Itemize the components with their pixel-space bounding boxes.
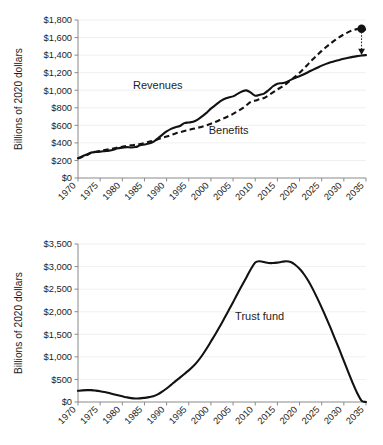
x-tick-label: 2015 <box>256 180 278 202</box>
y-tick-label: $1,600 <box>44 33 72 43</box>
y-axis-title: Billions of 2020 dollars <box>13 48 24 150</box>
x-tick-label: 1980 <box>101 404 123 426</box>
y-tick-label: $400 <box>51 138 72 148</box>
y-tick-label: $1,500 <box>44 330 72 340</box>
x-tick-label: 2015 <box>256 404 278 426</box>
x-tick-label: 2005 <box>211 180 233 202</box>
y-tick-label: $1,400 <box>44 50 72 60</box>
y-axis-title: Billions of 2020 dollars <box>13 272 24 374</box>
end-marker-arrow-revenues <box>358 49 365 55</box>
x-tick-label: 2035 <box>344 404 366 426</box>
y-tick-label: $1,000 <box>44 86 72 96</box>
y-tick-label: $1,800 <box>44 15 72 25</box>
social-security-projection-figure: $0$200$400$600$800$1,000$1,200$1,400$1,6… <box>0 0 383 445</box>
x-tick-label: 1985 <box>123 404 145 426</box>
x-tick-label: 2010 <box>233 180 255 202</box>
series-line-benefits <box>78 29 366 159</box>
y-tick-label: $2,500 <box>44 284 72 294</box>
x-tick-label: 1975 <box>78 180 100 202</box>
x-tick-label: 2005 <box>211 404 233 426</box>
x-tick-label: 2020 <box>278 180 300 202</box>
x-tick-label: 1970 <box>56 404 78 426</box>
y-tick-label: $3,000 <box>44 262 72 272</box>
series-label-trust-fund: Trust fund <box>235 310 284 322</box>
y-tick-label: $200 <box>51 156 72 166</box>
series-line-trust-fund <box>78 261 366 402</box>
end-marker-dot-benefits <box>357 25 365 33</box>
chart-panel-revenues-benefits: $0$200$400$600$800$1,000$1,200$1,400$1,6… <box>0 0 383 222</box>
x-tick-label: 1995 <box>167 404 189 426</box>
x-tick-label: 1990 <box>145 404 167 426</box>
series-label-revenues: Revenues <box>133 79 183 91</box>
x-tick-label: 1985 <box>123 180 145 202</box>
chart-panel-trust-fund: $0$500$1,000$1,500$2,000$2,500$3,000$3,5… <box>0 222 383 445</box>
x-tick-label: 2010 <box>233 404 255 426</box>
x-tick-label: 2025 <box>300 404 322 426</box>
y-tick-label: $2,000 <box>44 307 72 317</box>
revenues-benefits-chart: $0$200$400$600$800$1,000$1,200$1,400$1,6… <box>0 0 383 222</box>
y-tick-label: $3,500 <box>44 239 72 249</box>
x-tick-label: 2020 <box>278 404 300 426</box>
y-tick-label: $600 <box>51 121 72 131</box>
x-tick-label: 1980 <box>101 180 123 202</box>
series-label-benefits: Benefits <box>209 124 249 136</box>
trust-fund-chart: $0$500$1,000$1,500$2,000$2,500$3,000$3,5… <box>0 222 383 445</box>
x-tick-label: 2030 <box>322 404 344 426</box>
x-tick-label: 2025 <box>300 180 322 202</box>
x-tick-label: 1975 <box>78 404 100 426</box>
x-tick-label: 2000 <box>189 404 211 426</box>
x-tick-label: 1970 <box>56 180 78 202</box>
x-tick-label: 1990 <box>145 180 167 202</box>
y-tick-label: $800 <box>51 103 72 113</box>
y-tick-label: $1,000 <box>44 352 72 362</box>
x-tick-label: 2035 <box>344 180 366 202</box>
x-tick-label: 2000 <box>189 180 211 202</box>
y-tick-label: $1,200 <box>44 68 72 78</box>
x-tick-label: 2030 <box>322 180 344 202</box>
x-tick-label: 1995 <box>167 180 189 202</box>
y-tick-label: $500 <box>51 375 72 385</box>
